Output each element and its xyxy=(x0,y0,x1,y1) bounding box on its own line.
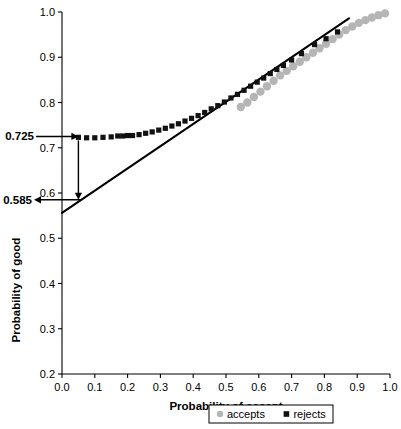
data-point-rejects xyxy=(100,135,105,140)
data-point-rejects xyxy=(150,129,155,134)
lower-annotation-arrowhead xyxy=(34,196,41,203)
y-tick-label: 0.6 xyxy=(40,187,55,199)
drop-arrow-arrowhead xyxy=(75,193,82,200)
data-point-rejects xyxy=(156,128,161,133)
data-point-rejects xyxy=(261,75,266,80)
data-point-rejects xyxy=(125,133,130,138)
data-point-accepts xyxy=(256,87,264,95)
x-tick-label: 0.9 xyxy=(350,381,365,393)
data-point-accepts xyxy=(243,98,251,106)
reference-line-layer xyxy=(62,18,349,213)
legend-label: accepts xyxy=(227,408,265,420)
data-points-layer xyxy=(76,9,389,140)
upper-annotation-label: 0.725 xyxy=(5,130,34,142)
data-point-rejects xyxy=(335,29,340,34)
data-point-rejects xyxy=(209,106,214,111)
y-tick-label: 1.0 xyxy=(40,6,55,18)
series-rejects xyxy=(76,29,340,140)
x-tick-label: 0.6 xyxy=(251,381,266,393)
data-point-rejects xyxy=(136,132,141,137)
legend-label: rejects xyxy=(293,408,326,420)
legend-square-icon xyxy=(284,411,290,417)
chart-container: 0.20.30.40.50.60.70.80.91.00.00.10.20.30… xyxy=(0,0,401,429)
data-point-rejects xyxy=(274,67,279,72)
y-tick-label: 0.2 xyxy=(40,368,55,380)
data-point-rejects xyxy=(281,63,286,68)
data-point-accepts xyxy=(381,9,389,17)
data-point-rejects xyxy=(312,42,317,47)
data-point-rejects xyxy=(176,121,181,126)
lower-annotation-label: 0.585 xyxy=(3,194,32,206)
scatter-plot: 0.20.30.40.50.60.70.80.91.00.00.10.20.30… xyxy=(0,0,401,429)
x-tick-label: 0.5 xyxy=(218,381,233,393)
data-point-rejects xyxy=(182,118,187,123)
data-point-rejects xyxy=(323,36,328,41)
data-point-rejects xyxy=(268,71,273,76)
x-tick-label: 0.0 xyxy=(54,381,69,393)
data-point-rejects xyxy=(115,133,120,138)
x-tick-label: 0.3 xyxy=(153,381,168,393)
x-tick-label: 0.1 xyxy=(87,381,102,393)
data-point-rejects xyxy=(109,134,114,139)
reference-diagonal-line xyxy=(62,18,349,213)
data-point-rejects xyxy=(130,133,135,138)
data-point-rejects xyxy=(84,135,89,140)
y-tick-label: 0.9 xyxy=(40,51,55,63)
y-tick-label: 0.8 xyxy=(40,97,55,109)
x-tick-label: 0.2 xyxy=(120,381,135,393)
legend-circle-icon xyxy=(217,411,223,417)
chart-legend[interactable]: acceptsrejects xyxy=(209,405,333,423)
data-point-rejects xyxy=(163,126,168,131)
data-point-rejects xyxy=(222,99,227,104)
y-tick-label: 0.5 xyxy=(40,232,55,244)
data-point-rejects xyxy=(196,113,201,118)
y-tick-label: 0.4 xyxy=(40,278,55,290)
data-point-rejects xyxy=(299,51,304,56)
data-point-accepts xyxy=(269,77,277,85)
series-accepts xyxy=(237,9,390,111)
axes-layer: 0.20.30.40.50.60.70.80.91.00.00.10.20.30… xyxy=(40,6,398,393)
y-axis-title: Probability of good xyxy=(10,238,22,343)
x-tick-label: 1.0 xyxy=(382,381,397,393)
data-point-rejects xyxy=(228,95,233,100)
data-point-rejects xyxy=(120,133,125,138)
data-point-rejects xyxy=(143,131,148,136)
data-point-rejects xyxy=(248,84,253,89)
x-tick-label: 0.4 xyxy=(186,381,201,393)
y-tick-label: 0.3 xyxy=(40,323,55,335)
data-point-rejects xyxy=(92,135,97,140)
y-tick-label: 0.7 xyxy=(40,142,55,154)
data-point-rejects xyxy=(241,88,246,93)
data-point-rejects xyxy=(289,57,294,62)
data-point-accepts xyxy=(250,93,258,101)
data-point-rejects xyxy=(215,103,220,108)
x-tick-label: 0.7 xyxy=(284,381,299,393)
x-tick-label: 0.8 xyxy=(317,381,332,393)
data-point-rejects xyxy=(235,92,240,97)
data-point-rejects xyxy=(255,80,260,85)
data-point-rejects xyxy=(202,110,207,115)
data-point-rejects xyxy=(169,123,174,128)
data-point-accepts xyxy=(263,82,271,90)
data-point-rejects xyxy=(189,116,194,121)
